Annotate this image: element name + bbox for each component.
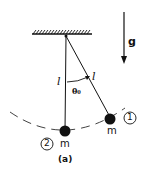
bob-right-number: 1 — [127, 113, 133, 122]
bob-left — [60, 126, 71, 137]
angle-arc — [67, 77, 88, 82]
bob-right — [105, 114, 116, 125]
bob-left-number: 2 — [44, 139, 50, 148]
bob-left-mass-label: m — [60, 139, 70, 149]
ceiling-support — [32, 30, 92, 34]
angle-label: θ₀ — [72, 87, 81, 95]
figure-caption: (a) — [58, 155, 72, 164]
length-label-left: l — [57, 76, 61, 87]
gravity-label: g — [128, 36, 136, 47]
string-vertical — [65, 36, 66, 131]
bob-right-mass-label: m — [107, 126, 117, 136]
pendulum-diagram: g l l θ₀ m m 2 1 (a) — [0, 0, 148, 173]
gravity-arrowhead-icon — [121, 56, 127, 64]
length-label-right: l — [92, 71, 96, 82]
